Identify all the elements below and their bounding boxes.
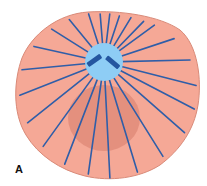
panel-label: A — [15, 163, 23, 175]
cell-diagram — [0, 0, 207, 186]
nucleus — [68, 85, 140, 151]
